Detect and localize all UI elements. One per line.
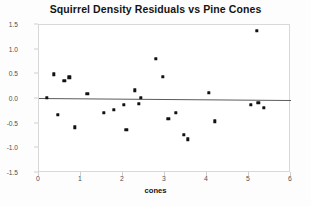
x-tick-mark (164, 172, 165, 176)
x-tick-label: 4 (196, 175, 216, 182)
data-point (112, 108, 115, 111)
x-tick-mark (122, 172, 123, 176)
data-point (68, 76, 71, 79)
data-point (182, 133, 185, 136)
data-point (122, 103, 125, 106)
data-point (257, 101, 260, 104)
data-point (207, 91, 210, 94)
data-point (249, 103, 252, 106)
y-tick-label: 0.5 (0, 70, 18, 77)
data-point (86, 92, 89, 95)
data-point (52, 73, 55, 76)
data-point (62, 79, 65, 82)
data-point (154, 57, 157, 60)
x-tick-label: 5 (238, 175, 258, 182)
x-tick-label: 2 (112, 175, 132, 182)
plot-frame (38, 24, 290, 172)
scatter-plot-figure: Squirrel Density Residuals vs Pine Cones… (0, 0, 311, 206)
data-point (137, 102, 140, 105)
data-point (174, 111, 177, 114)
y-tick-label: -0.5 (0, 119, 18, 126)
data-point (161, 75, 164, 78)
data-point (125, 128, 128, 131)
x-tick-mark (38, 172, 39, 176)
data-point (213, 119, 216, 122)
x-axis-label: cones (0, 186, 311, 195)
y-tick-label: -1.0 (0, 144, 18, 151)
x-tick-mark (206, 172, 207, 176)
y-tick-label: -1.5 (0, 169, 18, 176)
zero-residual-line (39, 98, 291, 101)
data-point (262, 106, 265, 109)
x-tick-mark (248, 172, 249, 176)
data-point (255, 29, 258, 32)
x-tick-label: 6 (280, 175, 300, 182)
x-tick-label: 1 (70, 175, 90, 182)
data-point (167, 117, 170, 120)
y-tick-label: 1.5 (0, 21, 18, 28)
data-point (73, 125, 76, 128)
data-point (186, 138, 189, 141)
plot-area (39, 25, 289, 171)
data-point (102, 111, 105, 114)
page-title: Squirrel Density Residuals vs Pine Cones (0, 3, 311, 15)
x-tick-label: 0 (28, 175, 48, 182)
data-point (133, 88, 136, 91)
y-tick-label: 1.0 (0, 45, 18, 52)
data-point (56, 113, 59, 116)
x-tick-mark (80, 172, 81, 176)
x-tick-mark (290, 172, 291, 176)
x-tick-label: 3 (154, 175, 174, 182)
y-tick-label: 0.0 (0, 95, 18, 102)
